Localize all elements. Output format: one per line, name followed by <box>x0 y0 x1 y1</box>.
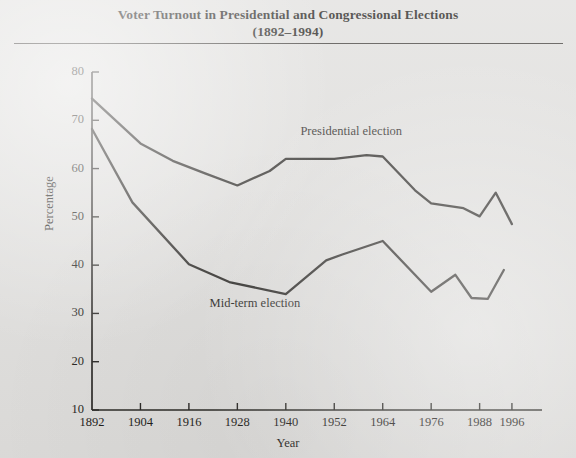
series-line-presidential <box>92 99 512 225</box>
y-tick-label: 80 <box>50 65 84 78</box>
series-line-midterm <box>92 129 504 299</box>
figure-container: Voter Turnout in Presidential and Congre… <box>0 0 576 458</box>
axis-layer <box>92 72 542 410</box>
y-tick-label: 10 <box>50 403 84 416</box>
y-tick-label: 40 <box>50 258 84 271</box>
x-tick-label: 1928 <box>211 416 263 429</box>
x-tick-label: 1952 <box>308 416 360 429</box>
y-tick-label: 20 <box>50 355 84 368</box>
plot-area: Percentage Year 1020304050607080 1892190… <box>0 0 576 458</box>
x-tick-label: 1976 <box>405 416 457 429</box>
x-tick-label: 1964 <box>357 416 409 429</box>
y-tick-label: 60 <box>50 162 84 175</box>
x-tick-label: 1904 <box>114 416 166 429</box>
y-tick-label: 70 <box>50 113 84 126</box>
y-tick-label: 30 <box>50 306 84 319</box>
x-tick-label: 1892 <box>66 416 118 429</box>
x-tick-label: 1940 <box>260 416 312 429</box>
x-tick-label: 1916 <box>163 416 215 429</box>
series-label-presidential: Presidential election <box>300 124 402 139</box>
x-axis-title: Year <box>0 436 576 451</box>
line-chart-svg <box>0 0 576 458</box>
series-label-midterm: Mid-term election <box>210 296 301 311</box>
y-tick-label: 50 <box>50 210 84 223</box>
x-tick-label: 1996 <box>486 416 538 429</box>
